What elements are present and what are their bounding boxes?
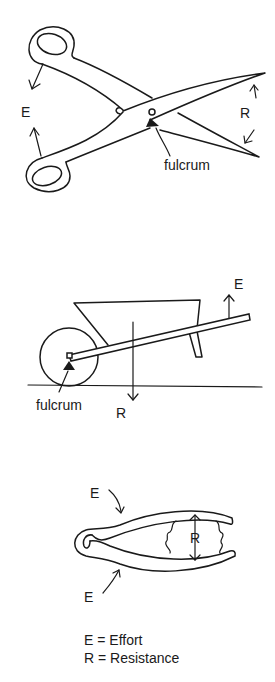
- legend-effort: E = Effort: [84, 632, 143, 648]
- wheelbarrow-leg: [189, 331, 202, 357]
- scissors-fulcrum-label: fulcrum: [164, 157, 210, 173]
- tweezers-object-right-squiggle: [216, 521, 223, 553]
- scissors-resistance-label: R: [240, 105, 250, 121]
- scissors-effort-arrows: [29, 64, 43, 156]
- wheelbarrow-handle: [69, 314, 250, 361]
- tweezers-object-left-squiggle: [166, 521, 176, 553]
- wheelbarrow-fulcrum-label: fulcrum: [36, 397, 82, 413]
- wheelbarrow-figure: fulcrum R E: [28, 276, 262, 421]
- legend-resistance: R = Resistance: [84, 650, 180, 666]
- wheelbarrow-fulcrum-triangle-icon: [63, 361, 75, 370]
- tweezers-hinge: [83, 535, 92, 548]
- tweezers-effort-top-label: E: [90, 485, 99, 501]
- scissors-pivot: [149, 109, 155, 115]
- tweezers-effort-arrows: [103, 490, 124, 593]
- wheelbarrow-fulcrum-pointer: [59, 371, 68, 392]
- tweezers-body: [75, 511, 236, 571]
- wheelbarrow-effort-label: E: [234, 276, 243, 292]
- wheelbarrow-resistance-label: R: [116, 405, 126, 421]
- legend: E = Effort R = Resistance: [84, 632, 180, 666]
- scissors-figure: fulcrum E R: [21, 27, 265, 192]
- tweezers-figure: R E E: [75, 485, 236, 605]
- scissors-upper-handle: [29, 27, 152, 114]
- scissors-effort-label: E: [21, 104, 30, 120]
- wheelbarrow-resistance-arrow: [128, 322, 138, 400]
- wheelbarrow-tray: [74, 300, 200, 345]
- tweezers-effort-bottom-label: E: [84, 589, 93, 605]
- tweezers-resistance-label: R: [190, 530, 200, 546]
- scissors-lower-handle: [26, 112, 150, 192]
- wheelbarrow-effort-arrow: [224, 295, 234, 318]
- lever-diagram: fulcrum E R ful: [0, 0, 275, 682]
- wheelbarrow-axle: [67, 353, 72, 358]
